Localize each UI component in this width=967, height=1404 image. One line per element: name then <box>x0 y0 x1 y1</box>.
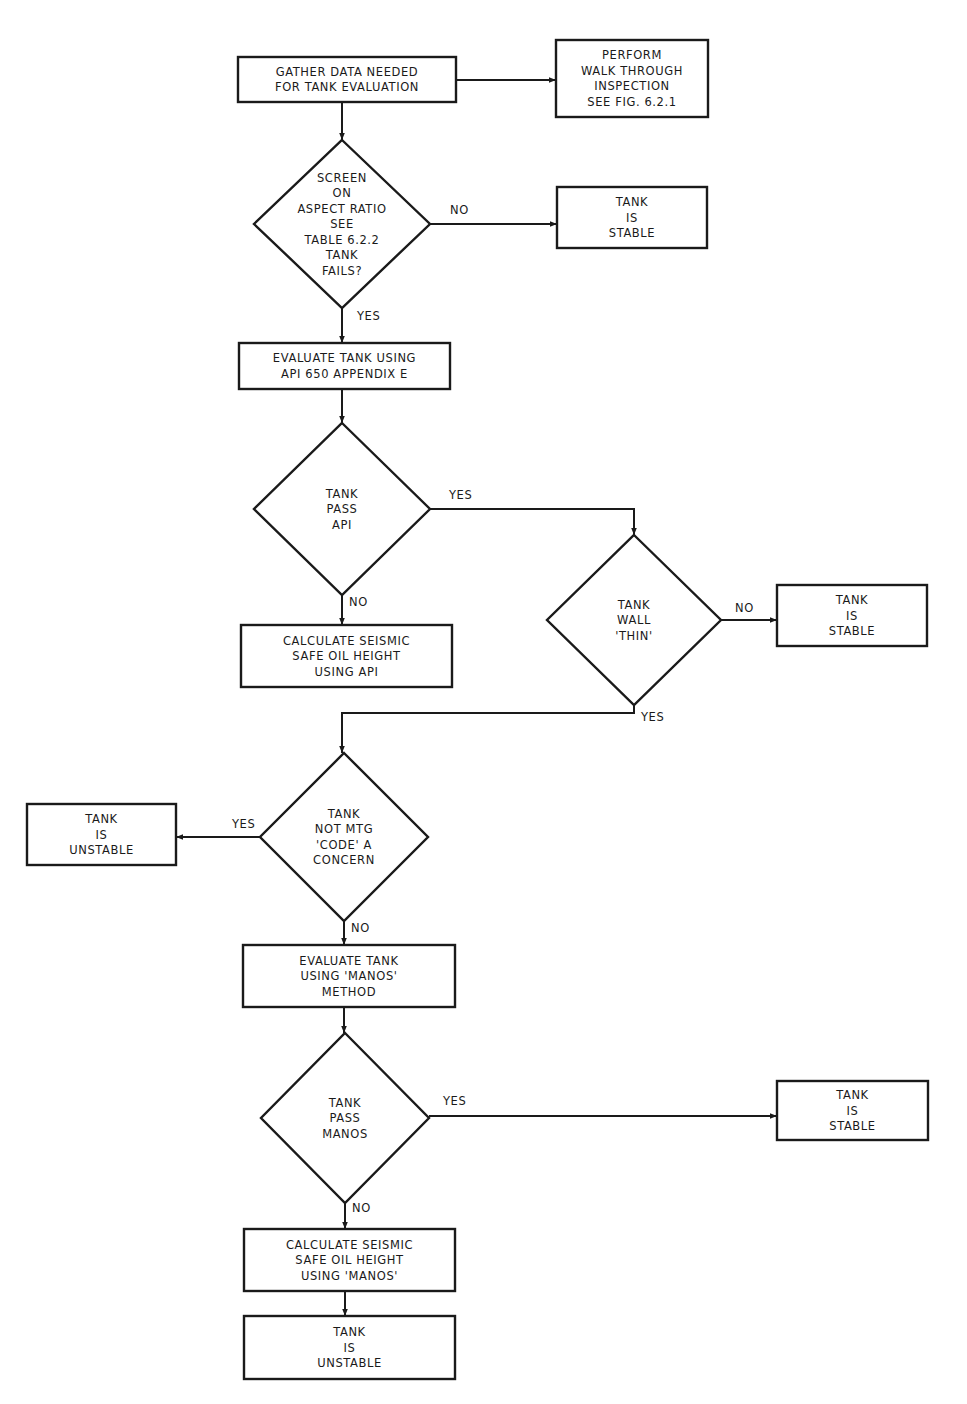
node-text-line: 'THIN' <box>615 629 653 643</box>
edge-screen-to-eval-api: YES <box>342 308 380 343</box>
edge-pass-api-to-calc-api: NO <box>342 595 368 625</box>
node-text-line: TANK <box>835 593 869 607</box>
node-text-line: CALCULATE SEISMIC <box>286 1238 413 1252</box>
node-text-line: GATHER DATA NEEDED <box>276 65 419 79</box>
node-text-line: IS <box>344 1341 356 1355</box>
process-calc-manos: CALCULATE SEISMICSAFE OIL HEIGHTUSING 'M… <box>244 1229 455 1291</box>
node-text-line: WALK THROUGH <box>581 64 683 78</box>
process-stable2: TANKISSTABLE <box>777 585 927 646</box>
node-text-line: PASS <box>329 1111 360 1125</box>
process-stable1: TANKISSTABLE <box>557 187 707 248</box>
node-text-line: SEE <box>330 217 354 231</box>
node-text-line: TANK <box>332 1325 366 1339</box>
node-text-line: SCREEN <box>317 171 367 185</box>
decision-wall-thin: TANKWALL'THIN' <box>547 535 721 705</box>
node-text-line: USING API <box>315 665 379 679</box>
node-text-line: EVALUATE TANK USING <box>273 351 416 365</box>
node-text-line: UNSTABLE <box>69 843 134 857</box>
node-text-line: METHOD <box>322 985 376 999</box>
node-text-line: INSPECTION <box>594 79 670 93</box>
node-text-line: PASS <box>326 502 357 516</box>
node-text-line: TANK <box>615 195 649 209</box>
node-text-line: SAFE OIL HEIGHT <box>295 1253 404 1267</box>
node-text-line: SAFE OIL HEIGHT <box>292 649 401 663</box>
edge-label-no: NO <box>352 1201 371 1215</box>
node-text-line: TANK <box>328 1096 362 1110</box>
node-text-line: WALL <box>617 613 651 627</box>
node-text-line: USING 'MANOS' <box>301 1269 398 1283</box>
node-text-line: STABLE <box>609 226 655 240</box>
node-text-line: USING 'MANOS' <box>300 969 397 983</box>
process-stable3: TANKISSTABLE <box>777 1081 928 1140</box>
decision-screen: SCREENONASPECT RATIOSEETABLE 6.2.2TANKFA… <box>254 140 430 308</box>
edge-code-concern-to-unstable1: YES <box>176 817 260 837</box>
edge-label-yes: YES <box>442 1094 466 1108</box>
edge-label-no: NO <box>735 601 754 615</box>
node-text-line: TANK <box>325 487 359 501</box>
node-text-line: TANK <box>327 807 361 821</box>
edge-label-yes: YES <box>356 309 380 323</box>
node-text-line: TANK <box>835 1088 869 1102</box>
edge-screen-to-stable1: NO <box>430 203 557 224</box>
flowchart-canvas: NOYESYESNONOYESYESNOYESNO GATHER DATA NE… <box>0 0 967 1404</box>
node-text-line: API 650 APPENDIX E <box>281 367 408 381</box>
decision-code-concern: TANKNOT MTG'CODE' ACONCERN <box>260 753 428 921</box>
node-text-line: API <box>332 518 352 532</box>
edge-label-no: NO <box>349 595 368 609</box>
edge-wall-thin-to-stable2: NO <box>721 601 777 620</box>
node-text-line: IS <box>846 609 858 623</box>
edge-label-yes: YES <box>640 710 664 724</box>
node-text-line: CALCULATE SEISMIC <box>283 634 410 648</box>
node-text-line: ASPECT RATIO <box>297 202 386 216</box>
node-text-line: TANK <box>617 598 651 612</box>
edge-code-concern-to-eval-manos: NO <box>344 921 370 945</box>
nodes-layer: GATHER DATA NEEDEDFOR TANK EVALUATIONPER… <box>27 40 928 1379</box>
node-text-line: ON <box>333 186 352 200</box>
edges-layer: NOYESYESNONOYESYESNOYESNO <box>176 80 777 1316</box>
node-text-line: IS <box>847 1104 859 1118</box>
connector-arrow <box>430 509 634 535</box>
process-eval-api: EVALUATE TANK USINGAPI 650 APPENDIX E <box>239 343 450 389</box>
process-calc-api: CALCULATE SEISMICSAFE OIL HEIGHTUSING AP… <box>241 625 452 687</box>
process-gather: GATHER DATA NEEDEDFOR TANK EVALUATION <box>238 57 456 102</box>
node-text-line: IS <box>96 828 108 842</box>
node-text-line: STABLE <box>829 624 875 638</box>
node-text-line: 'CODE' A <box>316 838 372 852</box>
node-text-line: TABLE 6.2.2 <box>303 233 379 247</box>
node-text-line: SEE FIG. 6.2.1 <box>587 95 676 109</box>
node-text-line: FAILS? <box>322 264 362 278</box>
edge-label-no: NO <box>450 203 469 217</box>
node-text-line: STABLE <box>829 1119 875 1133</box>
edge-label-yes: YES <box>231 817 255 831</box>
node-text-line: UNSTABLE <box>317 1356 382 1370</box>
edge-pass-manos-to-stable3: YES <box>429 1094 777 1116</box>
node-text-line: CONCERN <box>313 853 375 867</box>
edge-label-yes: YES <box>448 488 472 502</box>
connector-arrow <box>342 705 634 753</box>
node-text-line: EVALUATE TANK <box>299 954 398 968</box>
process-unstable2: TANKISUNSTABLE <box>244 1316 455 1379</box>
edge-label-no: NO <box>351 921 370 935</box>
node-text-line: FOR TANK EVALUATION <box>275 80 419 94</box>
node-text-line: NOT MTG <box>315 822 373 836</box>
node-text-line: PERFORM <box>602 48 662 62</box>
edge-pass-manos-to-calc-manos: NO <box>345 1201 371 1229</box>
process-unstable1: TANKISUNSTABLE <box>27 804 176 865</box>
decision-pass-api: TANKPASSAPI <box>254 423 430 595</box>
node-text-line: TANK <box>84 812 118 826</box>
node-text-line: MANOS <box>322 1127 368 1141</box>
edge-wall-thin-to-code-concern: YES <box>342 705 664 753</box>
node-text-line: TANK <box>325 248 359 262</box>
process-walkthrough: PERFORMWALK THROUGHINSPECTIONSEE FIG. 6.… <box>556 40 708 117</box>
node-text-line: IS <box>626 211 638 225</box>
edge-pass-api-to-wall-thin: YES <box>430 488 634 535</box>
decision-pass-manos: TANKPASSMANOS <box>261 1033 429 1203</box>
process-eval-manos: EVALUATE TANKUSING 'MANOS'METHOD <box>243 945 455 1007</box>
